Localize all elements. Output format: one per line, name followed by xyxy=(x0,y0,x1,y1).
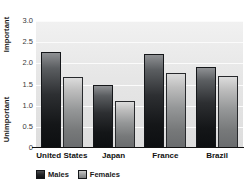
bar-series-container xyxy=(36,21,243,148)
bar-females-japan xyxy=(115,101,135,148)
legend-label: Males xyxy=(48,170,69,179)
legend-label: Females xyxy=(90,170,120,179)
bar-chart: Important Unimportant 3.02.52.01.51.00.5… xyxy=(0,0,248,186)
bar-females-france xyxy=(166,73,186,148)
y-axis-tick-label: 0 xyxy=(16,144,33,152)
y-axis-tick-label: 2.5 xyxy=(16,38,33,46)
legend-item-males[interactable]: Males xyxy=(36,170,69,179)
bar-males-japan xyxy=(93,85,113,149)
legend-swatch-icon-males xyxy=(36,170,45,179)
y-axis-label-unimportant: Unimportant xyxy=(2,94,11,146)
y-axis-tick-label: 1.0 xyxy=(16,102,33,110)
legend-swatch-icon-females xyxy=(78,170,87,179)
y-axis-tick-label: 2.0 xyxy=(16,59,33,67)
bar-males-united-states xyxy=(41,52,61,148)
x-axis-label-france: France xyxy=(140,151,192,160)
bar-males-brazil xyxy=(196,67,216,148)
y-axis-tick-label: 1.5 xyxy=(16,81,33,89)
x-axis-label-united-states: United States xyxy=(36,151,88,160)
legend: MalesFemales xyxy=(36,170,120,179)
x-axis-label-japan: Japan xyxy=(88,151,140,160)
y-axis-tick-label: 3.0 xyxy=(16,17,33,25)
legend-item-females[interactable]: Females xyxy=(78,170,120,179)
y-axis-label-important: Important xyxy=(2,15,11,55)
x-axis-label-brazil: Brazil xyxy=(191,151,243,160)
y-axis-zero-tick xyxy=(32,147,36,148)
bar-females-united-states xyxy=(63,77,83,148)
bar-females-brazil xyxy=(218,76,238,148)
y-axis-tick-label: 0.5 xyxy=(16,123,33,131)
plot-area xyxy=(36,21,243,148)
y-axis-tick-labels: 3.02.52.01.51.00.50 xyxy=(14,0,33,186)
bar-males-france xyxy=(144,54,164,148)
x-axis-line xyxy=(33,147,244,148)
